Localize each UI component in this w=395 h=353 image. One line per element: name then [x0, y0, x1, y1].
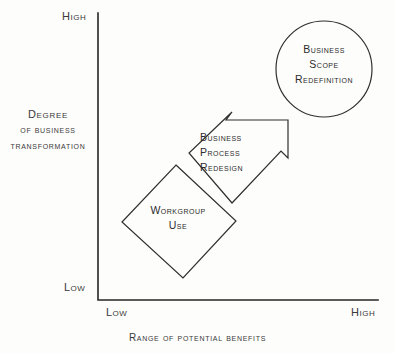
x-axis-title: Range of potential benefits	[0, 332, 395, 343]
y-axis-low-label: Low	[64, 281, 85, 293]
x-axis-low-label: Low	[106, 306, 127, 318]
node-label-line-1: Business	[200, 130, 276, 145]
node-label-workgroup-use: Workgroup Use	[128, 203, 228, 233]
node-label-line-3: Redefinition	[276, 72, 372, 87]
node-label-line-2: Scope	[276, 57, 372, 72]
diagram-canvas: High Low Degree of business transformati…	[0, 0, 395, 353]
node-label-business-scope-redefinition: Business Scope Redefinition	[276, 42, 372, 87]
node-label-line-3: Redesign	[200, 160, 276, 175]
y-axis-title-line-2: of business	[4, 122, 92, 138]
y-axis-high-label: High	[62, 10, 86, 22]
x-axis-high-label: High	[351, 306, 375, 318]
y-axis-title: Degree of business transformation	[4, 106, 92, 154]
y-axis-title-line-1: Degree	[4, 106, 92, 122]
node-label-line-2: Process	[200, 145, 276, 160]
node-label-line-1: Workgroup	[128, 203, 228, 218]
y-axis-title-line-3: transformation	[4, 138, 92, 154]
node-label-business-process-redesign: Business Process Redesign	[200, 130, 276, 175]
node-label-line-1: Business	[276, 42, 372, 57]
node-label-line-2: Use	[128, 218, 228, 233]
